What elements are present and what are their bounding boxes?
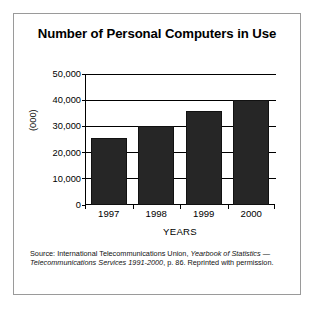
- source-suffix: , p. 86. Reprinted with permission.: [163, 258, 273, 267]
- x-axis-tick-labels: 1997199819992000: [85, 208, 275, 222]
- x-axis-tick-label: 2000: [227, 208, 275, 219]
- x-axis-tick-label: 1999: [180, 208, 228, 219]
- source-italic-subtitle: Telecommunications Services 1991-2000: [30, 258, 163, 267]
- y-axis-tick-label: 20,000: [37, 148, 81, 158]
- bar-1998: [138, 126, 174, 205]
- bar-series: [85, 74, 275, 205]
- y-axis-tick-label: 40,000: [37, 95, 81, 105]
- y-axis-tick-label: 50,000: [37, 69, 81, 79]
- source-italic-title: Yearbook of Statistics: [191, 249, 261, 258]
- y-axis-tick-labels: 010,00020,00030,00040,00050,000: [33, 74, 81, 205]
- source-note: Source: International Telecommunications…: [30, 249, 280, 267]
- bar-1999: [186, 111, 222, 205]
- y-axis-tick-label: 0: [37, 200, 81, 210]
- bar-2000: [233, 100, 269, 205]
- bar-1997: [91, 138, 127, 205]
- source-separator: —: [261, 249, 270, 258]
- y-axis-tick-label: 10,000: [37, 174, 81, 184]
- x-axis-label: YEARS: [85, 226, 275, 237]
- source-prefix: Source: International Telecommunications…: [30, 249, 191, 258]
- y-axis-tick-label: 30,000: [37, 121, 81, 131]
- y-axis-label: (000): [28, 109, 38, 131]
- x-axis-tick-label: 1997: [85, 208, 133, 219]
- figure-page: Number of Personal Computers in Use 010,…: [0, 0, 316, 311]
- x-axis-tick-label: 1998: [132, 208, 180, 219]
